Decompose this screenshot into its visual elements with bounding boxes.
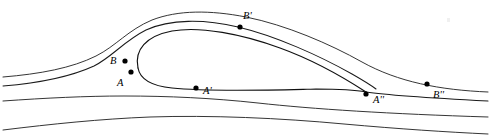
inner-lower-streamline	[3, 96, 488, 117]
scan-speck	[447, 18, 450, 22]
outer-upper-streamline	[3, 12, 488, 92]
dividing-streamline-upper-branch	[3, 21, 376, 89]
marker-dot-B	[122, 58, 127, 63]
outer-lower-streamline	[3, 116, 488, 134]
marker-dot-Bpp	[424, 81, 429, 86]
marker-dot-A	[128, 69, 133, 74]
streamline-group	[3, 12, 488, 134]
point-label-Ap: A'	[203, 86, 212, 97]
streamline-figure: BAB'A'A''B''	[0, 0, 491, 138]
marker-dot-Bp	[237, 24, 242, 29]
point-label-App: A''	[373, 95, 384, 106]
point-label-B: B	[110, 56, 116, 67]
dividing-streamline-lower-branch	[366, 92, 488, 101]
point-label-Bp: B'	[243, 11, 252, 22]
point-label-A: A	[117, 78, 123, 89]
point-label-Bpp: B''	[433, 90, 444, 101]
marker-dot-group	[122, 24, 429, 96]
marker-dot-Ap	[193, 85, 198, 90]
bubble-upper-arc	[137, 30, 366, 92]
marker-dot-App	[363, 91, 368, 96]
